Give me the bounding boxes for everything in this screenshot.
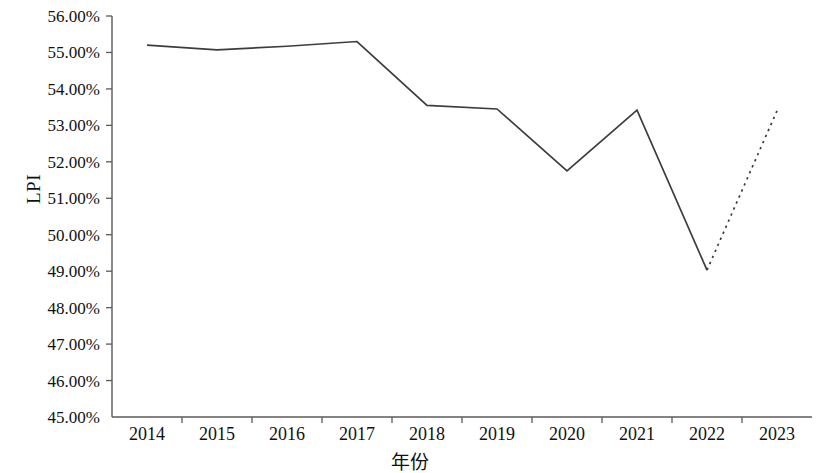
x-axis-ticks [182, 417, 742, 423]
plot-area [0, 0, 819, 473]
y-axis-ticks [106, 16, 112, 381]
line-chart: LPI 56.00%55.00%54.00%53.00%52.00%51.00%… [0, 0, 819, 473]
axis-lines [112, 16, 812, 417]
data-line-forecast [707, 111, 777, 270]
data-series-layer [147, 42, 777, 271]
data-line-actual [147, 42, 707, 271]
